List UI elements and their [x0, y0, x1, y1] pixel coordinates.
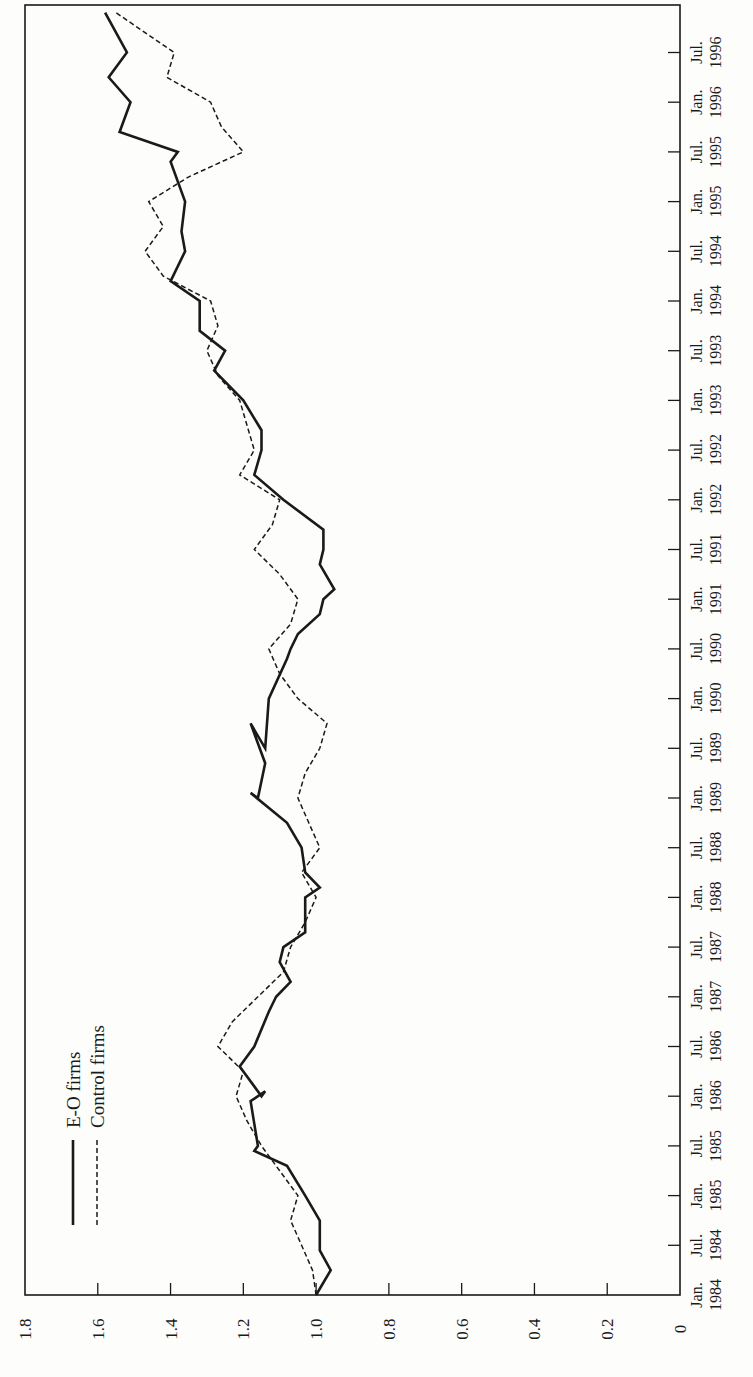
- time-tick-year: 1993: [707, 335, 724, 367]
- time-tick-year: 1988: [707, 832, 724, 864]
- time-tick-month: Jul.: [688, 1135, 705, 1158]
- value-axis: 00.20.40.60.81.01.21.41.61.8: [16, 1283, 690, 1340]
- plot-frame: [25, 5, 680, 1295]
- time-tick-label: Jul.1985: [688, 1130, 724, 1162]
- time-tick-month: Jul.: [688, 240, 705, 263]
- time-tick-label: Jan.1994: [688, 285, 724, 317]
- time-tick-month: Jul.: [688, 1234, 705, 1257]
- time-tick-year: 1989: [707, 782, 724, 814]
- value-tick-label: 1.2: [234, 1318, 253, 1339]
- series-lines: [105, 13, 334, 1295]
- time-tick-label: Jul.1988: [688, 832, 724, 864]
- time-tick-month: Jul.: [688, 41, 705, 64]
- time-tick-label: Jul.1992: [688, 434, 724, 466]
- time-tick-year: 1986: [707, 1080, 724, 1112]
- time-tick-month: Jul.: [688, 141, 705, 164]
- time-tick-year: 1995: [707, 186, 724, 218]
- time-tick-month: Jan.: [688, 587, 705, 612]
- time-tick-month: Jan.: [688, 984, 705, 1009]
- time-tick-month: Jul.: [688, 638, 705, 661]
- time-tick-month: Jan.: [688, 885, 705, 910]
- time-tick-year: 1987: [707, 981, 724, 1013]
- value-tick-label: 1.6: [89, 1318, 108, 1339]
- time-tick-year: 1986: [707, 1031, 724, 1063]
- time-tick-month: Jan.: [688, 785, 705, 810]
- time-tick-label: Jan.1988: [688, 881, 724, 913]
- time-tick-year: 1991: [707, 583, 724, 615]
- time-tick-label: Jul.1994: [688, 235, 724, 267]
- time-tick-year: 1996: [707, 86, 724, 118]
- time-tick-label: Jan.1986: [688, 1080, 724, 1112]
- time-tick-year: 1994: [707, 285, 724, 317]
- time-tick-year: 1990: [707, 683, 724, 715]
- chart: 00.20.40.60.81.01.21.41.61.8 Jan.1984Jul…: [0, 0, 753, 1377]
- time-tick-year: 1984: [707, 1279, 724, 1311]
- time-tick-year: 1991: [707, 534, 724, 566]
- time-tick-month: Jan.: [688, 388, 705, 413]
- time-tick-year: 1985: [707, 1180, 724, 1212]
- time-tick-label: Jul.1987: [688, 931, 724, 963]
- time-tick-year: 1989: [707, 732, 724, 764]
- time-tick-month: Jan.: [688, 288, 705, 313]
- value-tick-label: 0: [671, 1325, 690, 1334]
- time-tick-month: Jan.: [688, 1282, 705, 1307]
- time-tick-month: Jan.: [688, 1084, 705, 1109]
- time-tick-label: Jan.1993: [688, 384, 724, 416]
- time-tick-month: Jan.: [688, 686, 705, 711]
- time-tick-label: Jan.1987: [688, 981, 724, 1013]
- value-tick-label: 0.4: [525, 1318, 544, 1340]
- time-tick-year: 1990: [707, 633, 724, 665]
- time-tick-label: Jan.1985: [688, 1180, 724, 1212]
- time-tick-month: Jul.: [688, 538, 705, 561]
- time-tick-year: 1993: [707, 384, 724, 416]
- time-tick-label: Jul.1990: [688, 633, 724, 665]
- time-tick-year: 1996: [707, 37, 724, 69]
- value-tick-label: 0.8: [380, 1318, 399, 1339]
- time-tick-year: 1987: [707, 931, 724, 963]
- time-tick-label: Jan.1984: [688, 1279, 724, 1311]
- time-tick-label: Jul.1996: [688, 37, 724, 69]
- series-eo-firms: [105, 13, 334, 1295]
- time-tick-year: 1992: [707, 484, 724, 516]
- value-tick-label: 1.8: [16, 1318, 35, 1339]
- time-tick-year: 1984: [707, 1229, 724, 1261]
- value-tick-label: 1.4: [162, 1318, 181, 1340]
- time-tick-month: Jul.: [688, 1035, 705, 1058]
- time-tick-month: Jan.: [688, 487, 705, 512]
- value-tick-label: 0.2: [598, 1318, 617, 1339]
- time-axis: Jan.1984Jul.1984Jan.1985Jul.1985Jan.1986…: [668, 37, 724, 1312]
- time-tick-label: Jan.1995: [688, 186, 724, 218]
- time-tick-label: Jan.1989: [688, 782, 724, 814]
- time-tick-label: Jul.1986: [688, 1031, 724, 1063]
- time-tick-year: 1995: [707, 136, 724, 168]
- time-tick-label: Jan.1992: [688, 484, 724, 516]
- legend-label: E-O firms: [63, 1051, 84, 1128]
- time-tick-month: Jul.: [688, 439, 705, 462]
- plot-border: [25, 5, 680, 1295]
- time-tick-month: Jul.: [688, 936, 705, 959]
- time-tick-label: Jul.1984: [688, 1229, 724, 1261]
- time-tick-year: 1992: [707, 434, 724, 466]
- time-tick-month: Jan.: [688, 189, 705, 214]
- time-tick-label: Jul.1989: [688, 732, 724, 764]
- time-tick-month: Jan.: [688, 1183, 705, 1208]
- value-tick-label: 1.0: [307, 1318, 326, 1339]
- time-tick-label: Jul.1995: [688, 136, 724, 168]
- time-tick-month: Jul.: [688, 339, 705, 362]
- time-tick-label: Jan.1991: [688, 583, 724, 615]
- time-tick-month: Jan.: [688, 90, 705, 115]
- legend: E-O firmsControl firms: [63, 1025, 108, 1225]
- time-tick-month: Jul.: [688, 737, 705, 760]
- time-tick-label: Jul.1991: [688, 534, 724, 566]
- value-tick-label: 0.6: [453, 1318, 472, 1339]
- chart-svg: 00.20.40.60.81.01.21.41.61.8 Jan.1984Jul…: [0, 0, 753, 1377]
- time-tick-year: 1985: [707, 1130, 724, 1162]
- time-tick-label: Jan.1990: [688, 683, 724, 715]
- time-tick-year: 1994: [707, 235, 724, 267]
- time-tick-label: Jan.1996: [688, 86, 724, 118]
- time-tick-year: 1988: [707, 881, 724, 913]
- time-tick-month: Jul.: [688, 836, 705, 859]
- time-tick-label: Jul.1993: [688, 335, 724, 367]
- legend-label: Control firms: [87, 1025, 108, 1128]
- series-control-firms: [116, 13, 327, 1295]
